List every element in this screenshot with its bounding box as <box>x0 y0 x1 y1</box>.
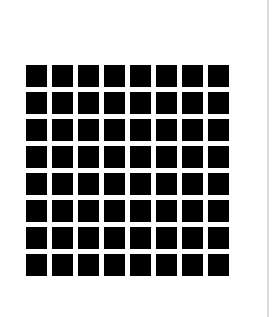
grid-square <box>78 254 99 276</box>
grid-square <box>182 65 203 87</box>
grid-square <box>130 119 151 141</box>
grid-square <box>104 119 125 141</box>
grid-square <box>104 173 125 195</box>
grid-square <box>156 92 177 114</box>
grid-square <box>78 173 99 195</box>
grid-square <box>78 146 99 168</box>
grid-square <box>52 227 73 249</box>
grid-square <box>52 146 73 168</box>
grid-square <box>52 65 73 87</box>
vertical-divider <box>267 0 269 317</box>
grid-square <box>182 200 203 222</box>
grid-square <box>182 119 203 141</box>
grid-square <box>130 92 151 114</box>
grid-square <box>52 173 73 195</box>
grid-square <box>52 119 73 141</box>
grid-square <box>208 92 229 114</box>
grid-square <box>182 254 203 276</box>
grid-square <box>182 173 203 195</box>
grid-square <box>208 200 229 222</box>
grid-square <box>182 146 203 168</box>
grid-square <box>208 65 229 87</box>
grid-square <box>208 119 229 141</box>
grid-square <box>78 119 99 141</box>
grid-square <box>130 173 151 195</box>
grid-square <box>104 200 125 222</box>
grid-square <box>52 200 73 222</box>
grid-square <box>104 254 125 276</box>
grid-square <box>104 146 125 168</box>
grid-square <box>26 92 47 114</box>
grid-square <box>78 227 99 249</box>
grid-square <box>26 254 47 276</box>
grid-square <box>208 227 229 249</box>
grid-square <box>26 119 47 141</box>
grid-square <box>130 200 151 222</box>
grid-square <box>26 200 47 222</box>
grid-square <box>26 227 47 249</box>
grid-square <box>26 146 47 168</box>
grid-square <box>52 92 73 114</box>
grid-square <box>156 65 177 87</box>
grid-square <box>182 92 203 114</box>
grid-square <box>130 227 151 249</box>
grid-square <box>130 146 151 168</box>
grid-square <box>156 200 177 222</box>
grid-square <box>78 92 99 114</box>
grid-square <box>208 173 229 195</box>
grid-square <box>156 173 177 195</box>
grid-square <box>156 254 177 276</box>
grid-square <box>104 65 125 87</box>
grid-square <box>130 65 151 87</box>
grid-square <box>26 173 47 195</box>
grid-square <box>104 92 125 114</box>
grid-square <box>78 200 99 222</box>
grid-square <box>182 227 203 249</box>
grid-square <box>208 146 229 168</box>
square-grid <box>26 65 229 275</box>
grid-square <box>156 227 177 249</box>
grid-square <box>52 254 73 276</box>
grid-square <box>156 146 177 168</box>
grid-square <box>78 65 99 87</box>
grid-square <box>156 119 177 141</box>
grid-square <box>208 254 229 276</box>
grid-square <box>130 254 151 276</box>
grid-square <box>26 65 47 87</box>
grid-square <box>104 227 125 249</box>
